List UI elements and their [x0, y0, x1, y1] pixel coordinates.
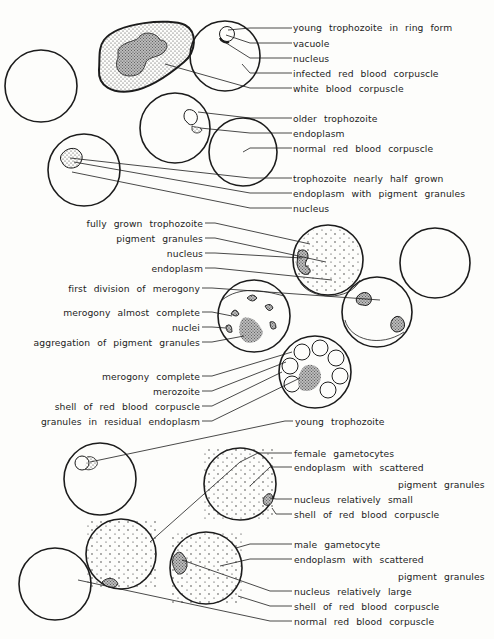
label-pigment-granules-1: pigment granules	[398, 479, 485, 490]
label-vacuole: vacuole	[293, 38, 329, 49]
normal-rbc-bottom	[19, 548, 91, 620]
label-endoplasm-2: endoplasm	[151, 263, 203, 274]
label-nucleus-2: nucleus	[293, 203, 329, 214]
label-endoplasm-scattered-2: endoplasm with scattered	[294, 554, 424, 565]
label-shell-rbc-2: shell of red blood corpuscle	[294, 509, 439, 520]
label-merogony-almost: merogony almost complete	[63, 307, 200, 318]
label-endoplasm-1: endoplasm	[293, 128, 345, 139]
older-trophozoite-rbc	[140, 93, 210, 163]
label-nucleus-3: nucleus	[167, 248, 203, 259]
merogony-complete-rbc	[279, 336, 351, 408]
label-female-gametocytes: female gametocytes	[294, 448, 394, 459]
normal-rbc-right	[400, 228, 470, 298]
label-pigment-granules: pigment granules	[116, 233, 203, 244]
label-merozoite: merozoite	[153, 386, 200, 397]
label-first-division: first division of merogony	[68, 283, 200, 294]
female-gametocyte-rbc-2	[86, 519, 156, 589]
label-merogony-complete: merogony complete	[102, 371, 200, 382]
label-fully-grown-trophozoite: fully grown trophozoite	[87, 218, 203, 229]
white-blood-corpuscle	[99, 22, 194, 92]
malaria-life-cycle-diagram	[0, 0, 494, 639]
infected-rbc-ring	[190, 21, 260, 91]
label-nucleus-large: nucleus relatively large	[294, 586, 412, 597]
label-trophozoite-half: trophozoite nearly half grown	[293, 173, 443, 184]
label-nuclei: nuclei	[172, 322, 200, 333]
normal-rbc-left	[5, 50, 77, 122]
young-trophozoite-rbc	[64, 443, 136, 515]
male-gametocyte-rbc	[170, 532, 242, 604]
first-division-rbc	[342, 277, 412, 347]
label-young-trophozoite-ring: young trophozoite in ring form	[293, 22, 452, 33]
label-normal-rbc-1: normal red blood corpuscle	[293, 143, 433, 154]
label-nucleus-small: nucleus relatively small	[294, 494, 413, 505]
label-young-trophozoite: young trophozoite	[295, 416, 384, 427]
label-aggregation-pigment: aggregation of pigment granules	[34, 337, 200, 348]
fully-grown-trophozoite-rbc	[293, 225, 363, 296]
label-normal-rbc-2: normal red blood corpuscle	[294, 616, 434, 627]
label-shell-rbc-3: shell of red blood corpuscle	[294, 601, 439, 612]
label-infected-rbc: infected red blood corpuscle	[293, 68, 439, 79]
label-endoplasm-pigment: endoplasm with pigment granules	[293, 188, 465, 199]
label-endoplasm-scattered-1: endoplasm with scattered	[294, 462, 424, 473]
label-granules-residual: granules in residual endoplasm	[41, 416, 200, 427]
label-male-gametocyte: male gametocyte	[294, 539, 380, 550]
label-pigment-granules-2: pigment granules	[398, 571, 485, 582]
label-nucleus-1: nucleus	[293, 53, 329, 64]
half-grown-trophozoite-rbc	[48, 134, 120, 206]
label-shell-rbc-1: shell of red blood corpuscle	[55, 401, 200, 412]
label-wbc: white blood corpuscle	[293, 83, 404, 94]
label-older-trophozoite: older trophozoite	[293, 113, 377, 124]
